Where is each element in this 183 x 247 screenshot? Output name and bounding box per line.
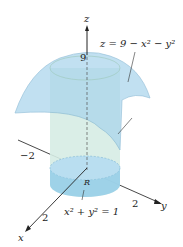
region-label: R <box>84 178 90 187</box>
neg-y-tick: −2 <box>20 150 35 161</box>
cylinder-equation: x² + y² = 1 <box>64 206 119 217</box>
x-tick-2: 2 <box>42 212 48 223</box>
z-axis-label: z <box>84 13 89 24</box>
surface-equation: z = 9 − x² − y² <box>100 38 175 49</box>
x-axis-label: x <box>18 232 24 243</box>
y-tick-2: 2 <box>132 198 138 209</box>
x-arrow-icon <box>25 225 31 232</box>
z-arrow-icon <box>85 25 89 31</box>
z-tick-9: 9 <box>80 52 86 63</box>
region-disk <box>50 156 120 180</box>
y-axis-label: y <box>161 200 167 211</box>
